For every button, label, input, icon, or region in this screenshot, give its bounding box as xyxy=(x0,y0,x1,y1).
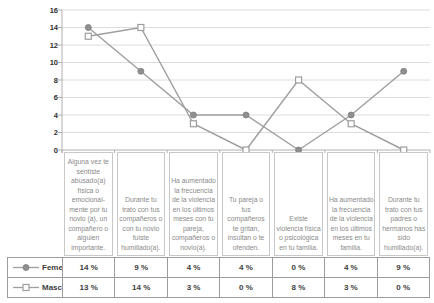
value-cell: 0 % xyxy=(272,258,324,278)
category-label: Ha aumentado la frecuencia de la violenc… xyxy=(327,152,376,256)
data-point-masculino xyxy=(190,121,196,127)
series-line-femenino xyxy=(88,28,403,151)
category-label: Ha aumentado la frecuencia de la violenc… xyxy=(169,152,218,256)
data-table: Femenino14 %9 %4 %4 %0 %4 %9 %Masculino1… xyxy=(7,257,430,298)
legend-cell: Femenino xyxy=(8,258,63,278)
data-point-masculino xyxy=(85,33,91,39)
value-cell: 4 % xyxy=(325,258,377,278)
y-tick-label: 16 xyxy=(34,6,58,15)
value-cell: 14 % xyxy=(115,278,167,298)
line-chart-figure: 0246810121416 Alguna vez te sentiste abu… xyxy=(0,0,434,303)
category-label: Durante tu trato con tus padres o herman… xyxy=(379,152,428,256)
y-tick-label: 4 xyxy=(34,111,58,120)
y-tick-label: 14 xyxy=(34,23,58,32)
data-point-femenino xyxy=(138,68,144,74)
value-cell: 9 % xyxy=(377,258,429,278)
value-cell: 13 % xyxy=(63,278,115,298)
y-tick-label: 12 xyxy=(34,41,58,50)
data-point-masculino xyxy=(296,77,302,83)
value-cell: 8 % xyxy=(272,278,324,298)
table-row: Femenino14 %9 %4 %4 %0 %4 %9 % xyxy=(8,258,430,278)
value-cell: 4 % xyxy=(167,258,219,278)
legend-filled-circle-icon xyxy=(13,263,39,272)
value-cell: 0 % xyxy=(220,278,272,298)
table-row: Masculino13 %14 %3 %0 %8 %3 %0 % xyxy=(8,278,430,298)
data-point-femenino xyxy=(401,68,407,74)
value-cell: 4 % xyxy=(220,258,272,278)
y-tick-label: 8 xyxy=(34,76,58,85)
category-label: Tu pareja o tus compañeros te gritan, in… xyxy=(222,152,271,256)
category-label: Durante tu trato con tus compañeros o co… xyxy=(117,152,166,256)
value-cell: 0 % xyxy=(377,278,429,298)
legend-label: Masculino xyxy=(42,283,63,292)
y-tick-label: 0 xyxy=(34,146,58,155)
category-label: Alguna vez te sentiste abusado(a) física… xyxy=(64,152,113,256)
legend-open-square-icon xyxy=(13,283,39,292)
data-point-masculino xyxy=(138,25,144,31)
series-line-masculino xyxy=(88,28,403,151)
plot-area xyxy=(62,10,430,156)
data-point-femenino xyxy=(348,112,354,118)
legend-cell: Masculino xyxy=(8,278,63,298)
value-cell: 14 % xyxy=(63,258,115,278)
y-tick-label: 10 xyxy=(34,58,58,67)
category-label: Existe violencia física o psicológica en… xyxy=(274,152,323,256)
data-point-femenino xyxy=(243,112,249,118)
data-point-masculino xyxy=(348,121,354,127)
data-point-femenino xyxy=(190,112,196,118)
value-cell: 9 % xyxy=(115,258,167,278)
value-cell: 3 % xyxy=(167,278,219,298)
legend-label: Femenino xyxy=(42,263,63,272)
y-tick-label: 2 xyxy=(34,128,58,137)
category-axis-labels: Alguna vez te sentiste abusado(a) física… xyxy=(62,152,430,256)
value-cell: 3 % xyxy=(325,278,377,298)
y-tick-label: 6 xyxy=(34,93,58,102)
data-point-femenino xyxy=(85,25,91,31)
